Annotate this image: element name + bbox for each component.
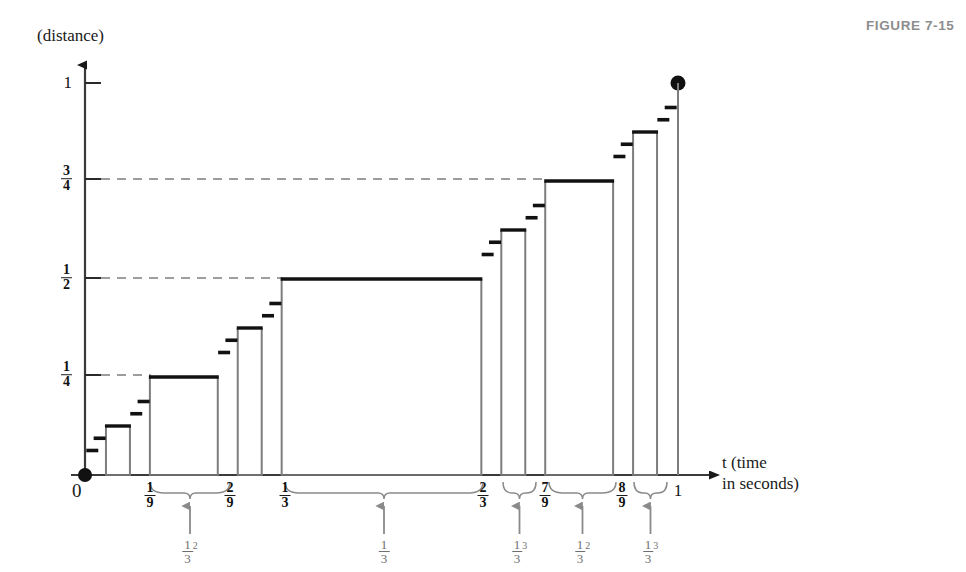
fraction-denominator: 9 (540, 495, 551, 510)
x-axis-title: t (time in seconds) (722, 452, 799, 495)
gridline-layer (85, 83, 546, 375)
fraction-numerator: 1 (61, 360, 72, 374)
fraction-numerator: 2 (225, 481, 236, 495)
fraction-numerator: 1 (379, 538, 390, 551)
brace-exponent: 2 (193, 540, 198, 551)
x-tick-label-0: 19 (145, 481, 156, 511)
fraction: 19 (145, 481, 156, 511)
fraction-numerator: 1 (182, 538, 193, 551)
x-tick-label-2: 13 (280, 481, 291, 511)
y-axis-title: (distance) (37, 26, 104, 46)
fraction-denominator: 4 (61, 375, 72, 390)
fraction: 14 (61, 360, 72, 390)
fraction-denominator: 3 (643, 551, 654, 565)
fraction: 13 (379, 538, 390, 566)
brace-eight-ninths-right-label: 133 (643, 538, 659, 566)
fraction: 12 (61, 263, 72, 293)
x-tick-label-5: 89 (617, 481, 628, 511)
brace-1 (285, 482, 483, 499)
fraction-denominator: 3 (478, 495, 489, 510)
figure-number-label: FIGURE 7-15 (866, 18, 954, 33)
brace-0 (150, 482, 230, 499)
y-tick-label-1: 34 (61, 164, 72, 194)
fraction: 89 (617, 481, 628, 511)
brace-seven-to-eight-ninths-label: 132 (575, 538, 591, 566)
brace-one-third-label: 13 (379, 538, 390, 566)
x-tick-label-4: 79 (540, 481, 551, 511)
fraction: 29 (225, 481, 236, 511)
fraction-denominator: 3 (182, 551, 193, 565)
brace-3 (549, 482, 616, 499)
fraction-denominator: 2 (61, 278, 72, 293)
y-tick-text: 1 (64, 73, 73, 92)
fraction-denominator: 9 (617, 495, 628, 510)
brace-one-ninth-label: 132 (182, 538, 198, 566)
fraction-numerator: 1 (512, 538, 523, 551)
x-axis-title-line2: in seconds) (722, 474, 799, 493)
brace-exponent: 3 (522, 540, 527, 551)
fraction-numerator: 1 (61, 263, 72, 277)
brace-seven-ninths-left-label: 133 (512, 538, 528, 566)
fraction-numerator: 1 (575, 538, 586, 551)
brace-exponent: 3 (653, 540, 658, 551)
brace-2 (503, 482, 536, 499)
fraction-denominator: 9 (225, 495, 236, 510)
x-axis-title-line1: t (time (722, 453, 767, 472)
fraction-denominator: 3 (512, 551, 523, 565)
fraction: 34 (61, 164, 72, 194)
fraction: 79 (540, 481, 551, 511)
x-tick-label-1: 29 (225, 481, 236, 511)
figure-canvas: FIGURE 7-15 (distance) t (time in second… (0, 0, 966, 572)
y-tick-label-3: 14 (61, 360, 72, 390)
x-tick-label-6: 1 (674, 481, 683, 501)
fraction-denominator: 3 (280, 495, 291, 510)
fraction-numerator: 1 (280, 481, 291, 495)
fraction-numerator: 2 (478, 481, 489, 495)
x-tick-label-3: 23 (478, 481, 489, 511)
fraction-denominator: 3 (379, 551, 390, 565)
plateau-layer (105, 132, 658, 475)
fraction-numerator: 3 (61, 164, 72, 178)
fraction-denominator: 3 (575, 551, 586, 565)
fraction-numerator: 7 (540, 481, 551, 495)
axes-layer (71, 65, 718, 475)
fraction-denominator: 9 (145, 495, 156, 510)
fraction: 13 (280, 481, 291, 511)
fraction-numerator: 8 (617, 481, 628, 495)
origin-label: 0 (72, 480, 82, 502)
fraction: 13 (643, 538, 654, 566)
fraction-numerator: 1 (643, 538, 654, 551)
brace-exponent: 2 (585, 540, 590, 551)
fraction: 13 (512, 538, 523, 566)
fraction: 13 (182, 538, 193, 566)
fraction-denominator: 4 (61, 179, 72, 194)
fraction: 13 (575, 538, 586, 566)
fraction: 23 (478, 481, 489, 511)
fraction-numerator: 1 (145, 481, 156, 495)
y-tick-label-2: 12 (61, 263, 72, 293)
x-tick-text: 1 (674, 481, 683, 500)
y-tick-label-0: 1 (64, 73, 73, 93)
brace-4 (634, 482, 667, 499)
